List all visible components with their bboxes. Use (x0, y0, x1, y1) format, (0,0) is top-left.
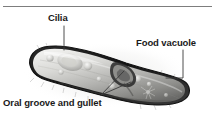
paramecium-figure: Cilia Food vacuole Oral groove and gulle… (0, 0, 215, 120)
leader-line-oral-groove-b (101, 82, 131, 95)
label-oral-groove: Oral groove and gullet (3, 98, 102, 108)
label-cilia: Cilia (48, 13, 68, 23)
leader-line-oral-groove-a (101, 71, 124, 95)
leader-line-food-vacuole (166, 50, 183, 78)
label-food-vacuole: Food vacuole (136, 38, 196, 48)
